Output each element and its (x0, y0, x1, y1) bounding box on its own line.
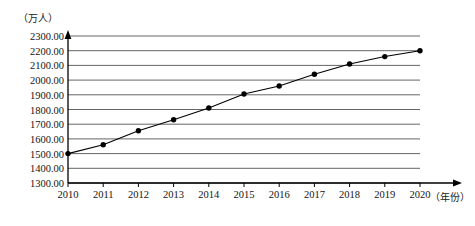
data-point-marker (171, 117, 176, 122)
x-tick-label: 2019 (374, 189, 395, 200)
population-line-chart: （万人） 1300.001400.001500.001600.001700.00… (0, 0, 475, 226)
x-tick-label: 2017 (304, 189, 325, 200)
data-point-marker (206, 105, 211, 110)
x-tick-label: 2011 (93, 189, 114, 200)
data-point-marker (382, 54, 387, 59)
x-tick-label: 2013 (163, 189, 184, 200)
data-point-marker (101, 142, 106, 147)
x-tick-label: 2012 (128, 189, 149, 200)
x-tick-label: 2020 (410, 189, 431, 200)
x-tick-label: 2010 (58, 189, 79, 200)
data-point-marker (312, 72, 317, 77)
data-point-markers (65, 48, 422, 156)
x-tick-label: 2016 (269, 189, 290, 200)
x-tick-label: 2014 (198, 189, 219, 200)
data-point-marker (136, 128, 141, 133)
data-point-marker (65, 151, 70, 156)
data-series-line (68, 51, 420, 154)
x-axis-title: （年份） (430, 189, 470, 204)
data-point-marker (347, 61, 352, 66)
gridlines (68, 36, 420, 183)
data-point-marker (241, 91, 246, 96)
y-axis-arrow-icon (65, 30, 72, 39)
x-tick-label: 2018 (339, 189, 360, 200)
x-axis-arrow-icon (453, 180, 462, 187)
data-point-marker (277, 83, 282, 88)
data-point-marker (417, 48, 422, 53)
x-tick-label: 2015 (234, 189, 255, 200)
